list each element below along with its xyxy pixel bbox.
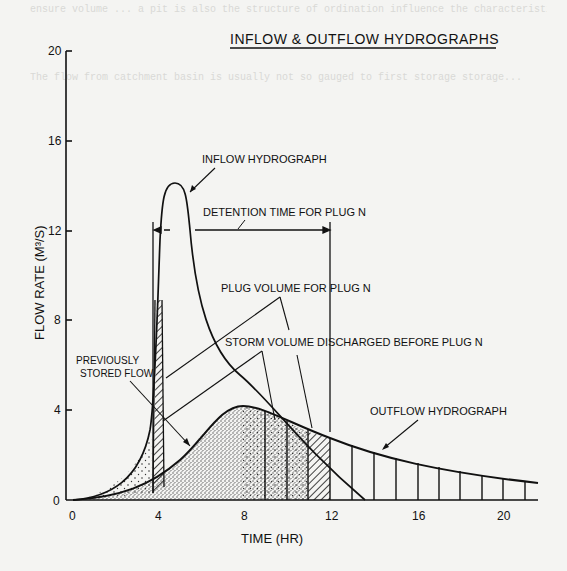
annotation-previously-stored-1: PREVIOUSLY xyxy=(76,355,139,366)
y-tick-20: 20 xyxy=(48,44,62,58)
y-tick-labels: 20 16 12 8 4 0 xyxy=(48,44,62,508)
x-axis-title: TIME (HR) xyxy=(241,531,303,546)
x-tick-labels: 0 4 8 12 16 20 xyxy=(69,509,511,523)
annotation-plug-volume: PLUG VOLUME FOR PLUG N xyxy=(221,282,371,294)
y-tick-8: 8 xyxy=(54,313,61,327)
y-axis-title: FLOW RATE (M³/S) xyxy=(32,225,47,340)
x-tick-20: 20 xyxy=(497,509,511,523)
annotation-detention-time: DETENTION TIME FOR PLUG N xyxy=(203,206,366,218)
y-tick-0: 0 xyxy=(53,494,60,508)
annotation-outflow: OUTFLOW HYDROGRAPH xyxy=(370,405,507,417)
annotation-storm-volume: STORM VOLUME DISCHARGED BEFORE PLUG N xyxy=(225,336,483,348)
annotation-previously-stored-2: STORED FLOW xyxy=(80,368,154,379)
x-tick-16: 16 xyxy=(412,509,426,523)
y-tick-4: 4 xyxy=(54,403,61,417)
x-tick-8: 8 xyxy=(241,509,248,523)
y-tick-12: 12 xyxy=(48,224,62,238)
x-tick-0: 0 xyxy=(69,509,76,523)
x-tick-12: 12 xyxy=(325,509,339,523)
storm-volume-area-light xyxy=(243,406,308,500)
hydrograph-chart: INFLOW & OUTFLOW HYDROGRAPHS 20 16 xyxy=(0,0,567,571)
y-tick-16: 16 xyxy=(48,134,62,148)
x-tick-4: 4 xyxy=(155,509,162,523)
chart-title: INFLOW & OUTFLOW HYDROGRAPHS xyxy=(230,31,499,47)
annotation-inflow: INFLOW HYDROGRAPH xyxy=(202,153,327,165)
